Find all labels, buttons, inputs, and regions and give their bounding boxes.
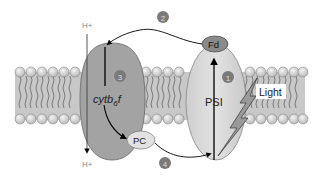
step-badge-2: 2 bbox=[157, 11, 169, 23]
svg-text:1: 1 bbox=[226, 74, 231, 83]
h-plus-top-label: H+ bbox=[82, 21, 93, 30]
arrow-fd-to-cytb6f bbox=[108, 29, 202, 44]
fd-label: Fd bbox=[208, 39, 219, 50]
pc-label: PC bbox=[133, 135, 146, 146]
step-badge-1: 1 bbox=[222, 71, 234, 83]
step-badge-4: 4 bbox=[159, 157, 171, 169]
svg-text:2: 2 bbox=[161, 14, 166, 23]
psi-complex: PSI bbox=[186, 44, 246, 160]
plastocyanin: PC bbox=[127, 131, 155, 149]
light-label: Light bbox=[259, 86, 282, 98]
ferredoxin: Fd bbox=[202, 36, 228, 52]
svg-text:4: 4 bbox=[163, 160, 168, 169]
light-label-box: Light bbox=[256, 84, 286, 99]
svg-text:3: 3 bbox=[118, 73, 123, 82]
diagram-canvas: cytb6f H+ H+ PSI Fd PC Light 1 2 bbox=[0, 0, 316, 175]
psi-label: PSI bbox=[205, 96, 223, 108]
h-plus-bottom-label: H+ bbox=[82, 160, 93, 169]
step-badge-3: 3 bbox=[114, 70, 126, 82]
